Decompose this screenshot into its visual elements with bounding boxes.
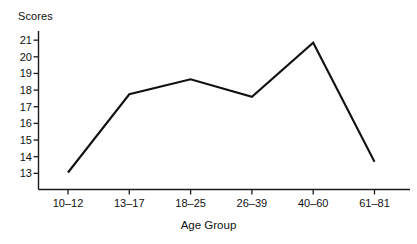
y-tick-label: 15: [6, 134, 32, 146]
y-tick-label: 14: [6, 151, 32, 163]
x-tick-label: 13–17: [97, 197, 161, 209]
y-tick-marks: [34, 40, 39, 173]
y-tick-label: 13: [6, 167, 32, 179]
x-tick-label: 10–12: [36, 197, 100, 209]
x-tick-label: 40–60: [281, 197, 345, 209]
x-tick-label: 61–81: [343, 197, 407, 209]
y-tick-label: 17: [6, 101, 32, 113]
y-tick-label: 21: [6, 34, 32, 46]
y-tick-label: 19: [6, 67, 32, 79]
axes: [39, 31, 411, 190]
y-tick-label: 16: [6, 117, 32, 129]
y-tick-label: 20: [6, 51, 32, 63]
line-chart: Scores 212019181716151413 10–1213–1718–2…: [0, 0, 417, 244]
x-tick-label: 26–39: [220, 197, 284, 209]
x-tick-label: 18–25: [159, 197, 223, 209]
y-tick-label: 18: [6, 84, 32, 96]
data-series-line: [68, 43, 375, 173]
x-tick-marks: [68, 190, 375, 195]
x-axis-title: Age Group: [0, 219, 417, 231]
